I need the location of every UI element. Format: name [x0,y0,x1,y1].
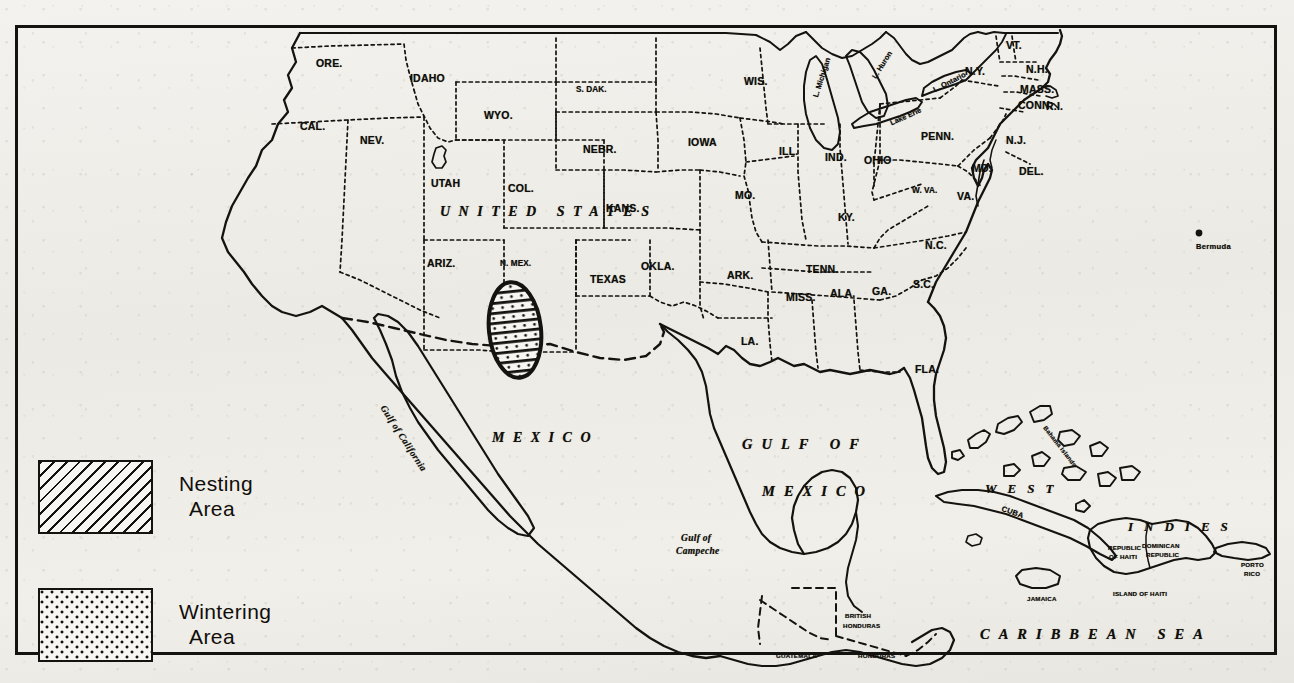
region-label-indies: INDIES [1128,520,1239,533]
state-label-nebr: NEBR. [583,144,617,155]
ocean-label-caribbean-sea: CARIBBEAN SEA [980,627,1212,642]
state-label-ind: IND. [825,152,847,163]
country-label-honduras: HONDURAS [858,653,895,659]
island-label-rico: RICO [1244,571,1260,577]
state-label-utah: UTAH [431,178,460,189]
state-label-r-i: R.I. [1046,101,1063,112]
state-label-n-h: N.H. [1026,64,1048,75]
state-label-idaho: IDAHO [410,73,445,84]
country-label-united-states: UNITED STATES [440,205,657,219]
state-label-ore: ORE. [316,58,342,69]
legend-label-wintering-line1: Wintering [179,600,271,625]
island-label-jamaica: JAMAICA [1027,596,1057,602]
island-label-dominican: DOMINICAN [1142,543,1180,549]
state-label-texas: TEXAS [590,274,626,285]
state-label-la: LA. [741,336,759,347]
state-label-miss: MISS. [786,292,816,303]
state-label-ill: ILL. [779,146,798,157]
island-label-republic: REPUBLIC [1108,545,1141,551]
state-label-ky: KY. [838,212,855,223]
state-label-s-dak: S. DAK. [576,86,607,94]
country-label-british: BRITISH [845,613,871,619]
legend: Nesting Area Wintering Area [38,460,288,662]
state-label-n-y: N.Y. [965,66,985,77]
state-label-penn: PENN. [921,131,954,142]
island-label-bermuda: Bermuda [1196,243,1231,251]
legend-swatch-wintering [38,588,153,662]
legend-label-wintering-line2: Area [179,625,271,650]
legend-item-nesting: Nesting Area [38,460,288,534]
ocean-label-mexico: MEXICO [762,484,874,499]
state-label-n-j: N.J. [1006,135,1026,146]
country-label-guatemala: GUATEMALA [776,653,817,659]
state-label-w-va: W. VA. [912,187,937,195]
state-label-tenn: TENN. [806,264,839,275]
state-label-nev: NEV. [360,135,384,146]
island-label-of-haiti: OF HAITI [1109,554,1137,560]
state-label-mass: MASS. [1020,84,1054,95]
country-label-mexico: MEXICO [492,431,599,445]
state-label-ariz: ARIZ. [427,258,455,269]
state-label-wyo: WYO. [484,110,513,121]
legend-label-nesting-line2: Area [179,497,253,522]
marked-nesting-wintering-area [484,280,546,381]
state-label-va: VA. [957,191,974,202]
island-label-island-of-haiti: ISLAND OF HAITI [1113,591,1167,597]
state-label-iowa: IOWA [688,137,717,148]
legend-swatch-nesting [38,460,153,534]
state-label-md: MD. [972,163,992,174]
state-label-del: DEL. [1019,166,1044,177]
state-label-ga: GA. [872,286,891,297]
island-label-porto: PORTO [1241,562,1264,568]
state-label-ala: ALA. [830,288,855,299]
state-label-ohio: OHIO [864,155,892,166]
water-label-gulf-of: Gulf of [681,534,711,544]
legend-item-wintering: Wintering Area [38,588,288,662]
water-label-campeche: Campeche [676,547,720,557]
state-label-vt: VT. [1006,40,1022,51]
state-label-ark: ARK. [727,270,753,281]
state-label-n-c: N.C. [925,240,947,251]
state-label-cal: CAL. [300,121,325,132]
state-label-s-c: S.C. [913,279,934,290]
state-label-okla: OKLA. [641,261,675,272]
state-label-mo: MO. [735,190,755,201]
state-label-fla: FLA. [915,364,939,375]
legend-label-nesting-line1: Nesting [179,472,253,497]
ocean-label-gulf-of: GULF OF [742,437,868,452]
state-label-n-mex: N. MEX. [500,260,531,268]
country-label-honduras: HONDURAS [843,623,880,629]
state-label-col: COL. [508,183,534,194]
region-label-west: WEST [985,482,1064,495]
island-label-republic: REPUBLIC [1146,552,1179,558]
map-canvas: ORE.IDAHOCAL.NEV.WYO.UTAHCOL.S. DAK.NEBR… [0,0,1294,683]
state-label-wis: WIS. [744,76,768,87]
